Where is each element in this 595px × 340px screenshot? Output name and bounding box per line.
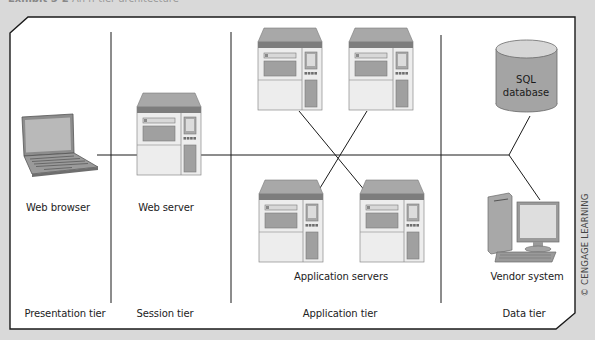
web-browser-label: Web browser — [26, 202, 90, 213]
application-servers-label: Application servers — [294, 271, 388, 282]
sql-database-line2: database — [503, 86, 549, 99]
sql-database-label: SQL database — [503, 73, 549, 99]
tier-label-application: Application tier — [303, 308, 377, 319]
tier-label-data: Data tier — [502, 308, 545, 319]
n-tier-diagram — [0, 0, 595, 340]
sql-database-line1: SQL — [503, 73, 549, 86]
application-server-icon-2 — [349, 28, 413, 110]
application-server-icon-3 — [259, 180, 323, 262]
tier-label-presentation: Presentation tier — [24, 308, 105, 319]
tier-label-session: Session tier — [136, 308, 193, 319]
copyright-notice: © CENGAGE LEARNING — [580, 193, 590, 296]
web-server-label: Web server — [138, 202, 194, 213]
vendor-system-label: Vendor system — [490, 271, 563, 282]
web-server-icon — [137, 93, 201, 175]
application-server-icon-1 — [258, 28, 322, 110]
desktop-computer-icon — [488, 193, 559, 262]
application-server-icon-4 — [360, 180, 424, 262]
